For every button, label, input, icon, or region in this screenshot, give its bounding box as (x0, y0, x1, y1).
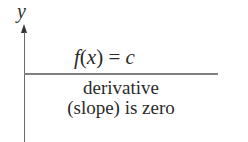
constant-symbol: c (126, 45, 135, 69)
caption-line-1: derivative (24, 78, 218, 98)
equals-sign: = (103, 45, 125, 69)
derivative-caption: derivative (slope) is zero (24, 78, 218, 118)
open-paren: ( (80, 45, 87, 69)
y-axis-label: y (17, 1, 26, 21)
caption-line-2: (slope) is zero (24, 98, 218, 118)
function-variable: x (87, 45, 96, 69)
function-label: f(x) = c (74, 46, 135, 68)
constant-function-line (24, 73, 218, 75)
